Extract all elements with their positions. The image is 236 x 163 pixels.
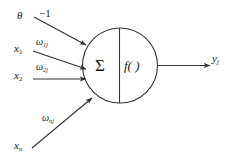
input-label-x2-subscript: 2 <box>19 75 22 82</box>
weight-label-w1j-subscript: 1j <box>43 41 48 48</box>
input-arrow-xn <box>32 98 92 148</box>
weight-label-w2j: ω2j <box>36 62 48 72</box>
input-label-theta: θ <box>17 10 22 21</box>
weight-label-wnj-base: ω <box>42 112 49 123</box>
weight-label-wnj-subscript: nj <box>49 117 54 124</box>
input-label-xn: xn <box>14 140 22 151</box>
input-label-x1: x1 <box>14 43 22 54</box>
output-label-yj: yj <box>212 53 219 64</box>
output-label-yj-subscript: j <box>217 58 219 65</box>
activation-function-label: f( ) <box>124 59 140 72</box>
weight-label-wnj: ωnj <box>42 113 54 123</box>
summation-symbol: Σ <box>95 57 105 74</box>
weight-label-w2j-base: ω <box>36 61 43 72</box>
weight-label-w1j-base: ω <box>36 36 43 47</box>
bias-weight-label: −1 <box>39 8 51 19</box>
neuron-diagram-canvas: θ −1 x1 ω1j x2 ω2j xn ωnj Σ f( ) yj <box>0 0 236 163</box>
input-label-x2: x2 <box>14 70 22 81</box>
weight-label-w2j-subscript: 2j <box>43 66 48 73</box>
diagram-vector-layer <box>0 0 236 163</box>
input-label-xn-subscript: n <box>19 145 22 152</box>
weight-label-w1j: ω1j <box>36 37 48 47</box>
input-label-x1-subscript: 1 <box>19 48 22 55</box>
